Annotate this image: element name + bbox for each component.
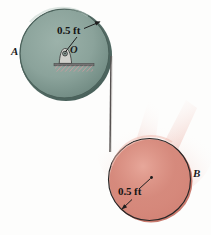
cylinder-b-label: B: [193, 168, 200, 179]
pulley-a-label: A: [11, 46, 18, 57]
pulley-a-center-label: O: [70, 45, 78, 56]
pulley-a-radius-dimension: 0.5 ft: [57, 25, 80, 36]
cylinder-b-radius-dimension: 0.5 ft: [118, 186, 141, 197]
mechanics-figure: A O 0.5 ft B 0.5 ft: [0, 0, 211, 235]
figure-canvas: [0, 0, 211, 235]
